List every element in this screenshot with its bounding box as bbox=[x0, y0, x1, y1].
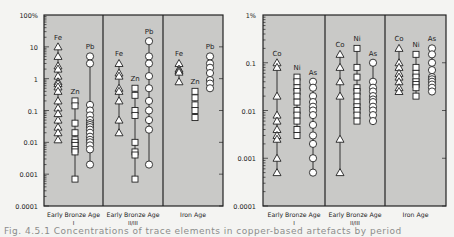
y-tick-label: 1% bbox=[246, 12, 256, 20]
square-marker bbox=[192, 95, 198, 101]
square-marker bbox=[354, 45, 360, 51]
circle-marker bbox=[309, 132, 316, 139]
square-marker bbox=[354, 64, 360, 70]
square-marker bbox=[294, 112, 300, 118]
circle-marker bbox=[309, 155, 316, 162]
y-tick-label: 0.1 bbox=[246, 60, 256, 68]
square-marker bbox=[354, 112, 360, 118]
period-label: Early Bronze Age bbox=[47, 211, 100, 219]
square-marker bbox=[294, 132, 300, 138]
y-tick-label: 0.001 bbox=[19, 171, 38, 179]
square-marker bbox=[132, 176, 138, 182]
element-label: As bbox=[369, 50, 378, 58]
circle-marker bbox=[309, 169, 316, 176]
y-tick-label: 1 bbox=[34, 76, 38, 84]
y-tick-label: 0.01 bbox=[242, 108, 256, 116]
square-marker bbox=[132, 152, 138, 158]
square-marker bbox=[72, 120, 78, 126]
y-tick-label: 0.0001 bbox=[233, 203, 256, 211]
square-marker bbox=[354, 74, 360, 80]
circle-marker bbox=[145, 73, 152, 80]
square-marker bbox=[72, 176, 78, 182]
chart-co-ni-as: 1%0.10.010.0010.0001Early Bronze AgeIEar… bbox=[233, 12, 446, 226]
circle-marker bbox=[309, 112, 316, 119]
element-label: Co bbox=[394, 35, 403, 43]
circle-marker bbox=[145, 126, 152, 133]
series-as: As bbox=[369, 50, 378, 125]
square-marker bbox=[413, 85, 419, 91]
element-label: Zn bbox=[190, 78, 199, 86]
figure-caption: Fig. 4.5.1 Concentrations of trace eleme… bbox=[4, 226, 402, 236]
element-label: Pb bbox=[145, 28, 154, 36]
series-pb: Pb bbox=[206, 43, 215, 91]
circle-marker bbox=[309, 121, 316, 128]
square-marker bbox=[72, 103, 78, 109]
circle-marker bbox=[145, 53, 152, 60]
period-label: Early Bronze Age bbox=[329, 211, 382, 219]
circle-marker bbox=[428, 59, 435, 66]
circle-marker bbox=[369, 117, 376, 124]
square-marker bbox=[192, 115, 198, 121]
series-ni: Ni bbox=[293, 64, 300, 138]
y-tick-label: 0.001 bbox=[237, 155, 256, 163]
period-label: Iron Age bbox=[403, 211, 429, 219]
circle-marker bbox=[145, 38, 152, 45]
circle-marker bbox=[86, 161, 93, 168]
square-marker bbox=[294, 79, 300, 85]
element-label: Ni bbox=[412, 41, 419, 49]
circle-marker bbox=[145, 161, 152, 168]
square-marker bbox=[354, 118, 360, 124]
element-label: Fe bbox=[115, 50, 123, 58]
square-marker bbox=[294, 93, 300, 99]
trace-element-charts: 100%1010.10.010.0010.0001Early Bronze Ag… bbox=[0, 0, 454, 237]
circle-marker bbox=[309, 84, 316, 91]
square-marker bbox=[354, 93, 360, 99]
circle-marker bbox=[428, 67, 435, 74]
element-label: Fe bbox=[54, 34, 62, 42]
y-tick-label: 0.01 bbox=[24, 139, 38, 147]
y-tick-label: 100% bbox=[19, 12, 38, 20]
square-marker bbox=[413, 64, 419, 70]
element-label: Zn bbox=[70, 88, 79, 96]
square-marker bbox=[132, 139, 138, 145]
series-pb: Pb bbox=[86, 43, 95, 168]
circle-marker bbox=[428, 88, 435, 95]
element-label: Co bbox=[272, 50, 281, 58]
circle-marker bbox=[145, 107, 152, 114]
chart-fe-zn-pb: 100%1010.10.010.0010.0001Early Bronze Ag… bbox=[15, 12, 223, 226]
circle-marker bbox=[428, 51, 435, 58]
period-label: Iron Age bbox=[180, 211, 206, 219]
circle-marker bbox=[309, 140, 316, 147]
series-ni: Ni bbox=[353, 35, 360, 124]
element-label: Ni bbox=[353, 35, 360, 43]
square-marker bbox=[413, 93, 419, 99]
square-marker bbox=[132, 85, 138, 91]
element-label: Pb bbox=[206, 43, 215, 51]
element-label: Pb bbox=[86, 43, 95, 51]
square-marker bbox=[294, 118, 300, 124]
period-label: Early Bronze Age bbox=[268, 211, 321, 219]
circle-marker bbox=[145, 97, 152, 104]
y-tick-label: 0.1 bbox=[28, 108, 38, 116]
element-label: Fe bbox=[175, 50, 183, 58]
series-zn: Zn bbox=[190, 78, 199, 120]
period-label: Early Bronze Age bbox=[107, 211, 160, 219]
element-label: As bbox=[428, 35, 437, 43]
y-tick-label: 10 bbox=[30, 44, 38, 52]
y-tick-label: 0.0001 bbox=[15, 203, 38, 211]
element-label: Zn bbox=[130, 75, 139, 83]
circle-marker bbox=[86, 60, 93, 67]
square-marker bbox=[192, 88, 198, 94]
circle-marker bbox=[145, 60, 152, 67]
circle-marker bbox=[206, 53, 213, 60]
square-marker bbox=[132, 92, 138, 98]
square-marker bbox=[132, 112, 138, 118]
square-marker bbox=[294, 127, 300, 133]
square-marker bbox=[72, 130, 78, 136]
square-marker bbox=[294, 99, 300, 105]
element-label: Ni bbox=[293, 64, 300, 72]
square-marker bbox=[413, 51, 419, 57]
circle-marker bbox=[206, 69, 213, 76]
circle-marker bbox=[369, 59, 376, 66]
circle-marker bbox=[86, 53, 93, 60]
